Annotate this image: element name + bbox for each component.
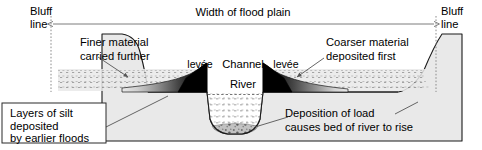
layers-of-silt-label-3: by earlier floods	[10, 132, 89, 144]
finer-material-label-1: Finer material	[80, 36, 148, 48]
layers-of-silt-label-1: Layers of silt	[10, 107, 74, 119]
flood-plain-diagram: Bluff line Bluff line Width of flood pla…	[0, 0, 482, 150]
coarser-material-label-1: Coarser material	[326, 36, 409, 48]
deposition-of-load-label-1: Deposition of load	[285, 107, 375, 119]
width-of-flood-plain-label: Width of flood plain	[195, 6, 290, 18]
deposition-of-load-label-2: causes bed of river to rise	[285, 121, 413, 133]
finer-material-label-2: carried further	[80, 50, 150, 62]
coarser-material-label-2: deposited first	[326, 50, 397, 62]
flood-plain-cross-section-svg: Bluff line Bluff line Width of flood pla…	[0, 0, 482, 150]
bluff-line-right-label-1: Bluff	[441, 5, 464, 17]
bluff-line-left-label-1: Bluff	[30, 5, 53, 17]
bluff-line-left-label-2: line	[30, 18, 47, 30]
bluff-line-right-label-2: line	[441, 18, 458, 30]
channel-label: Channel	[222, 58, 264, 70]
levee-left-label: levée	[187, 58, 212, 70]
layers-of-silt-label-2: deposited	[10, 120, 59, 132]
river-label: River	[230, 78, 256, 90]
levee-right-label: levée	[273, 58, 298, 70]
